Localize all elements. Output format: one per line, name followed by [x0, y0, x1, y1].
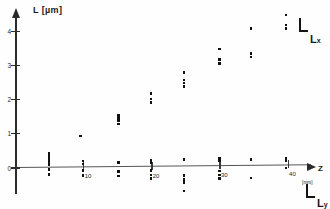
y-tick-2: [11, 99, 20, 100]
x-tick-label-30: 30: [221, 172, 228, 178]
data-point-lx-31: [250, 158, 252, 161]
x-tick-label-40: 40: [289, 171, 296, 177]
legend-ly-subscript: y: [324, 201, 328, 208]
data-point-ly-17: [285, 167, 287, 170]
x-tick-label-20: 20: [153, 173, 160, 179]
data-point-ly-11: [183, 181, 185, 184]
data-point-ly-15: [218, 177, 220, 180]
data-point-ly-6: [150, 169, 152, 172]
data-point-ly-4: [117, 170, 119, 173]
x-axis-line: [15, 164, 311, 168]
y-tick-label-0: 0: [0, 165, 11, 172]
x-axis-label: Z: [318, 164, 323, 173]
data-point-ly-8: [150, 177, 152, 180]
legend-ly-text: Ly: [317, 198, 328, 209]
data-point-lx-34: [285, 27, 287, 30]
y-axis-label: L [µm]: [33, 5, 62, 15]
data-point-lx-36: [285, 159, 287, 162]
legend-ly-bracket-horizontal: [306, 196, 315, 198]
data-point-lx-5: [79, 135, 81, 138]
data-point-lx-23: [218, 48, 220, 51]
data-point-ly-14: [218, 174, 220, 177]
y-axis-arrowhead: [12, 8, 20, 18]
legend-ly-base: L: [317, 197, 324, 209]
data-point-lx-7: [82, 163, 84, 166]
x-tick-40: [288, 160, 289, 168]
data-point-ly-7: [150, 174, 152, 177]
data-point-lx-17: [150, 161, 152, 164]
legend-lx-subscript: x: [317, 37, 321, 44]
data-point-ly-16: [250, 177, 252, 180]
x-tick-label-10: 10: [85, 173, 92, 179]
data-point-lx-15: [150, 101, 152, 104]
data-point-lx-13: [150, 92, 152, 95]
data-point-lx-14: [150, 98, 152, 101]
data-point-lx-18: [183, 71, 185, 74]
legend-lx-base: L: [310, 33, 317, 45]
x-tick-30: [219, 161, 220, 169]
scatter-plot-figure: L [µm] Z [mm] Lx Ly 0123410203040: [0, 0, 330, 209]
data-point-lx-27: [218, 159, 220, 162]
data-point-lx-24: [218, 58, 220, 61]
y-tick-label-4: 4: [0, 28, 11, 35]
data-point-ly-13: [218, 170, 220, 173]
data-point-ly-0: [48, 168, 50, 171]
data-point-lx-32: [285, 14, 287, 17]
y-tick-label-2: 2: [0, 96, 11, 103]
data-point-lx-30: [250, 56, 252, 59]
y-tick-1: [11, 133, 20, 134]
data-point-ly-1: [48, 173, 50, 176]
data-point-lx-4: [48, 163, 50, 166]
data-point-lx-11: [117, 123, 119, 126]
data-point-lx-12: [117, 161, 119, 164]
data-point-ly-2: [82, 169, 84, 172]
legend-lx-text: Lx: [310, 34, 321, 46]
y-tick-4: [11, 31, 20, 32]
data-point-ly-3: [82, 174, 84, 177]
y-tick-label-1: 1: [0, 130, 11, 137]
y-tick-0: [11, 167, 20, 168]
data-point-lx-28: [250, 27, 252, 30]
data-point-lx-25: [218, 62, 220, 65]
data-point-ly-9: [183, 174, 185, 177]
x-axis-arrowhead: [307, 163, 316, 171]
y-tick-label-3: 3: [0, 62, 11, 69]
data-point-ly-12: [183, 190, 185, 193]
data-point-lx-21: [183, 85, 185, 88]
data-point-ly-10: [183, 178, 185, 181]
data-point-lx-29: [250, 52, 252, 55]
data-point-ly-5: [117, 175, 119, 178]
y-tick-3: [11, 65, 20, 66]
data-point-lx-22: [183, 158, 185, 161]
data-point-lx-20: [183, 82, 185, 85]
data-point-lx-33: [285, 24, 287, 27]
legend-lx-bracket-horizontal: [299, 30, 308, 32]
